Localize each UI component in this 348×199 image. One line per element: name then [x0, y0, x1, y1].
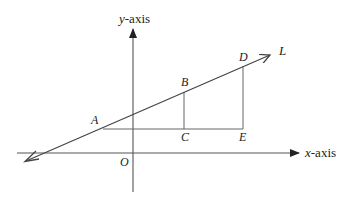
- point-b-label: B: [181, 75, 189, 89]
- coordinate-diagram: y-axis x-axis O L A B C D E: [0, 0, 348, 199]
- origin-label: O: [120, 155, 129, 169]
- y-axis-label: y-axis: [117, 11, 150, 26]
- line-l: [26, 55, 270, 161]
- point-c-label: C: [181, 130, 190, 144]
- x-axis-label: x-axis: [304, 145, 336, 160]
- line-l-label: L: [278, 43, 286, 58]
- point-d-label: D: [238, 50, 248, 64]
- point-a-label: A: [90, 113, 99, 127]
- point-e-label: E: [238, 130, 247, 144]
